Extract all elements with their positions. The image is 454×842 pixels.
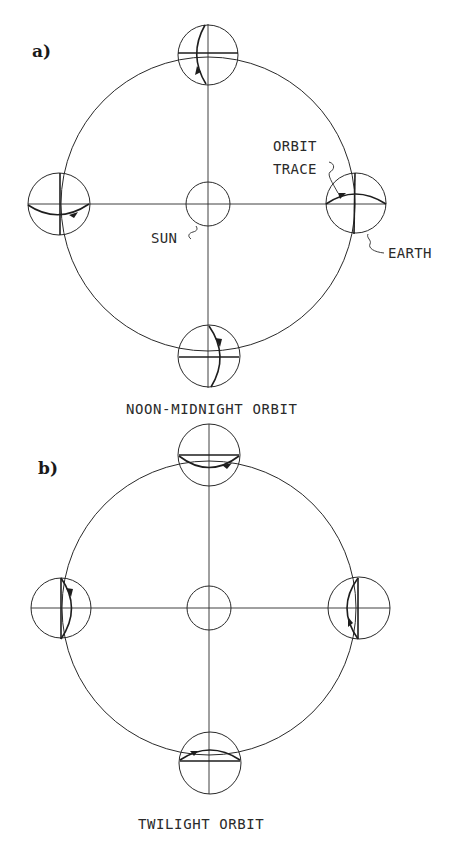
orbit-trace-label-line2: TRACE <box>273 161 317 177</box>
orbit-diagram: a) <box>0 0 454 842</box>
earth-leader-line <box>368 234 384 253</box>
panel-a-title: NOON-MIDNIGHT ORBIT <box>126 401 298 417</box>
orbit-trace <box>28 204 89 215</box>
panel-b: b) <box>31 424 390 832</box>
orbit-trace <box>61 578 72 639</box>
earth-icon <box>179 732 241 794</box>
panel-a: a) <box>28 24 432 417</box>
sun-label: SUN <box>151 230 177 246</box>
panel-b-label: b) <box>38 458 58 478</box>
terminator-line <box>354 173 355 234</box>
earth-bottom <box>178 325 240 387</box>
earth-left <box>31 578 91 639</box>
earth-bottom <box>179 732 241 794</box>
sun-leader-line <box>189 226 197 239</box>
orbit-trace <box>197 25 206 84</box>
orbit-trace <box>326 194 386 204</box>
earth-icon <box>178 325 240 387</box>
panel-b-title: TWILIGHT ORBIT <box>138 816 264 832</box>
earth-label: EARTH <box>388 245 432 261</box>
orbit-trace-label-line1: ORBIT <box>273 138 317 154</box>
panel-a-label: a) <box>32 41 51 61</box>
earth-icon <box>326 173 386 233</box>
earth-right <box>326 173 386 234</box>
